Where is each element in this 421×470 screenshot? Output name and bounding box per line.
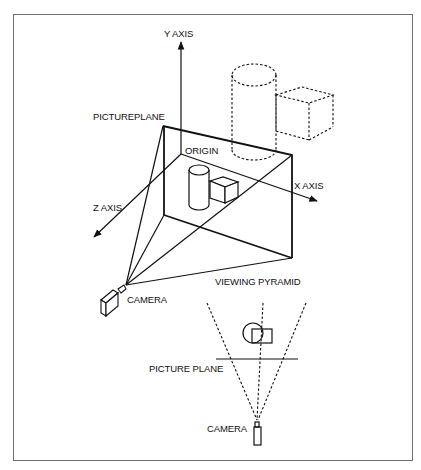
y-axis-label: Y AXIS [164, 28, 193, 39]
picture-plane-top-label: PICTURE PLANE [149, 363, 223, 374]
circle-object [243, 323, 263, 343]
viewing-pyramid-label: VIEWING PYRAMID [215, 276, 301, 287]
cylinder [189, 165, 209, 210]
z-axis-line [94, 154, 181, 237]
z-axis-label: Z AXIS [93, 202, 122, 213]
camera-top-label: CAMERA [207, 423, 248, 434]
diagram-canvas: Y AXIS X AXIS Z AXIS ORIGIN PICTUREPLANE… [0, 0, 421, 470]
x-axis-line [181, 154, 317, 201]
cube [210, 177, 238, 203]
camera-3d-icon [101, 285, 126, 316]
dashed-cube [276, 87, 333, 140]
x-axis-label: X AXIS [294, 180, 324, 191]
origin-label: ORIGIN [185, 145, 218, 156]
pictureplane-label: PICTUREPLANE [93, 111, 165, 122]
camera-3d-label: CAMERA [127, 294, 168, 305]
camera-top-icon [254, 427, 261, 445]
